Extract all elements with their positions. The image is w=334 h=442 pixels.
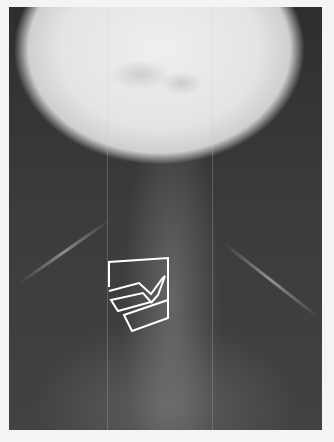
annotation-lower-quad: [124, 300, 168, 331]
annotation-overlay: [0, 0, 334, 442]
